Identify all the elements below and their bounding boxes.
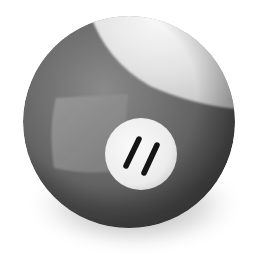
number-disc <box>105 118 177 190</box>
billiard-ball-scene: 11 <box>0 0 254 267</box>
billiard-ball-illustration <box>0 0 254 267</box>
number-disc-circle <box>105 118 177 190</box>
